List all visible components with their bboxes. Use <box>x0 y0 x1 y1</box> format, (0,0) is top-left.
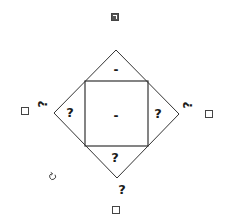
right-triangle-label[interactable]: ? <box>154 107 162 120</box>
right-checkbox[interactable] <box>205 110 213 118</box>
bottom-checkbox[interactable] <box>112 206 120 214</box>
left-edge-marker[interactable]: ? <box>37 101 49 108</box>
rotate-icon[interactable] <box>49 167 58 186</box>
center-square-label[interactable]: - <box>114 110 119 123</box>
bottom-triangle-label[interactable]: ? <box>111 151 119 164</box>
top-triangle-label[interactable]: - <box>114 64 119 77</box>
puzzle-board: - - ? ? ? ? ? ? <box>0 0 226 222</box>
left-checkbox[interactable] <box>21 107 29 115</box>
right-edge-marker[interactable]: ? <box>182 102 194 109</box>
left-triangle-label[interactable]: ? <box>66 106 74 119</box>
bottom-vertex-label[interactable]: ? <box>118 183 126 196</box>
top-checkbox[interactable] <box>111 13 119 21</box>
